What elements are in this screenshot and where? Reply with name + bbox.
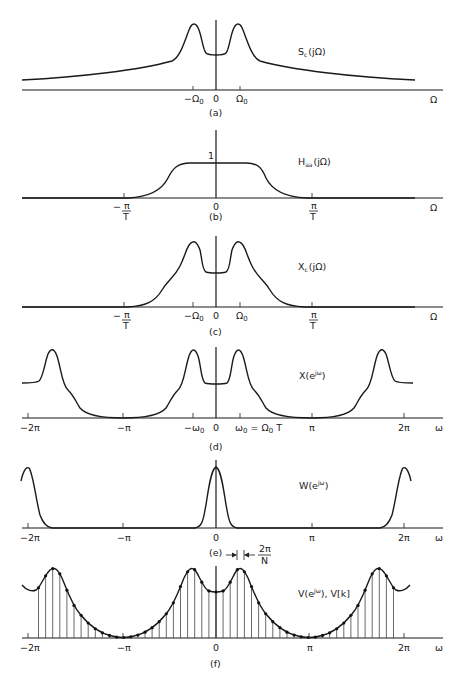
tick-label-minus-pi: −π (117, 422, 131, 433)
axis-variable-label: Ω (430, 311, 437, 322)
spectrum-curve (22, 24, 415, 80)
caption: (d) (209, 441, 222, 452)
caption: (a) (209, 107, 222, 118)
tick-label-omega0-eq: ω0 = Ω0 T (235, 422, 282, 435)
axis-variable-label: Ω (430, 202, 437, 213)
tick-label-minus-pi: −π (117, 642, 131, 653)
caption: (c) (209, 326, 222, 337)
dft-sample-dot (80, 614, 83, 617)
dft-sample-dot (51, 567, 54, 570)
tick-label-2pi: 2π (398, 422, 410, 433)
tick-label-minus-omega0: −Ω0 (184, 93, 204, 106)
tick-label-zero: 0 (213, 422, 219, 433)
figure-canvas: −Ω0 0 Ω0 Ω Sc(jΩ) (a) 1 − π T 0 π T Ω Ha… (0, 0, 465, 687)
dft-sample-dot (200, 581, 203, 584)
dtft-curve (22, 350, 413, 418)
frac-den: T (122, 211, 129, 222)
tick-label-minus-2pi: −2π (20, 532, 40, 543)
dft-sample-dot (65, 589, 68, 592)
frac-den: T (309, 211, 316, 222)
dft-sample-dot (115, 635, 118, 638)
spacing-num: 2π (259, 543, 271, 554)
level-one-label: 1 (208, 150, 214, 161)
tick-label-minus-omega0: −Ω0 (184, 310, 204, 323)
dft-sample-dot (349, 614, 352, 617)
dft-sample-dot (271, 620, 274, 623)
dft-sample-dot (371, 572, 374, 575)
dft-sample-dot (214, 590, 217, 593)
dft-sample-dot (392, 586, 395, 589)
tick-label-zero: 0 (213, 642, 219, 653)
arrow-left-head-icon (244, 553, 249, 558)
dft-sample-dot (250, 585, 253, 588)
dft-sample-dot (37, 586, 40, 589)
frac-den: T (122, 320, 129, 331)
caption: (e) (209, 547, 222, 558)
dft-sample-dot (257, 601, 260, 604)
function-label: Sc(jΩ) (298, 46, 326, 58)
function-label: X(ejω) (299, 369, 325, 381)
dft-sample-dot (222, 589, 225, 592)
dft-sample-dot (293, 633, 296, 636)
dft-sample-dot (236, 568, 239, 571)
dft-sample-dot (364, 589, 367, 592)
panel-a: −Ω0 0 Ω0 Ω Sc(jΩ) (a) (22, 20, 443, 118)
dft-sample-dot (58, 572, 61, 575)
panel-f: −2π −π 0 π 2π ω V(ejω), V[k] (f) (20, 566, 443, 669)
axis-variable-label: ω (435, 422, 443, 433)
tick-label-minus-2pi: −2π (20, 642, 40, 653)
panel-d: −2π −π −ω0 0 ω0 = Ω0 T π 2π ω X(ejω) (d) (20, 347, 443, 452)
axis-variable-label: Ω (430, 94, 437, 105)
dft-sample-dot (207, 589, 210, 592)
function-label: Haa(jΩ) (298, 156, 331, 168)
tick-label-2pi: 2π (398, 532, 410, 543)
caption: (b) (209, 211, 222, 222)
dft-sample-dot (300, 635, 303, 638)
dft-sample-dot (335, 627, 338, 630)
function-label: W(ejω) (299, 479, 328, 491)
tick-label-omega0: Ω0 (236, 93, 248, 106)
tick-label-zero: 0 (213, 532, 219, 543)
filtered-spectrum-curve (22, 242, 415, 307)
dft-sample-dot (264, 612, 267, 615)
tick-label-2pi: 2π (398, 642, 410, 653)
tick-label-neg-sign: − (113, 310, 121, 321)
frac-num: π (124, 309, 130, 320)
tick-label-pi: π (307, 642, 313, 653)
dft-sample-dot (143, 631, 146, 634)
dft-sample-dot (158, 620, 161, 623)
dft-sample-dot (108, 634, 111, 637)
dft-sample-dot (101, 631, 104, 634)
tick-label-pi: π (309, 422, 315, 433)
antialias-filter-curve (22, 163, 415, 198)
dft-sample-dot (136, 633, 139, 636)
dft-sample-dot (44, 574, 47, 577)
tick-label-zero: 0 (213, 310, 219, 321)
dft-sample-dot (151, 626, 154, 629)
tick-label-minus-omega0: −ω0 (184, 422, 204, 435)
dft-sample-dot (243, 570, 246, 573)
dft-sample-dot (285, 631, 288, 634)
frac-num: π (124, 200, 130, 211)
dft-sample-dot (342, 621, 345, 624)
axis-variable-label: ω (435, 642, 443, 653)
dft-sample-dot (129, 635, 132, 638)
axis-variable-label: ω (435, 532, 443, 543)
tick-label-minus-2pi: −2π (20, 422, 40, 433)
frac-num: π (311, 309, 317, 320)
spacing-den: N (261, 555, 268, 566)
function-label: V(ejω), V[k] (298, 587, 350, 599)
panel-b: 1 − π T 0 π T Ω Haa(jΩ) (b) (22, 130, 443, 222)
dft-sample-dot (385, 574, 388, 577)
tick-label-minus-pi-over-T: − (113, 201, 121, 212)
tick-label-omega0: Ω0 (236, 310, 248, 323)
dft-sample-dot (165, 612, 168, 615)
arrow-right-head-icon (232, 553, 237, 558)
caption: (f) (210, 658, 221, 669)
dft-sample-dot (172, 601, 175, 604)
dft-sample-dot (229, 581, 232, 584)
dft-sample-dot (278, 626, 281, 629)
panel-e: −2π −π 0 π 2π ω W(ejω) (e) 2π N (20, 460, 443, 566)
dft-sample-dot (356, 604, 359, 607)
dft-sample-dot (321, 634, 324, 637)
